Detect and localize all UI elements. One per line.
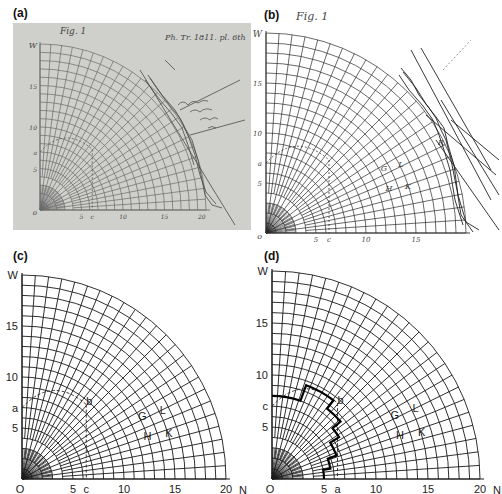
n-axis-tick: 10: [118, 483, 130, 494]
w-axis-title: W: [29, 41, 38, 50]
grid: [266, 31, 470, 233]
w-axis-tick: c: [263, 400, 269, 412]
w-axis-tick: 10: [256, 369, 268, 381]
n-axis-tick: 5: [80, 213, 84, 220]
point-label-b: b: [338, 394, 344, 406]
n-axis-tick: 10: [119, 213, 127, 220]
origin-label: O: [266, 483, 275, 494]
w-axis-tick: 15: [256, 317, 268, 329]
n-axis-tick: 15: [161, 213, 169, 220]
point-label-K: K: [404, 182, 412, 191]
w-axis-tick: 10: [253, 130, 262, 138]
n-axis-tick: 20: [474, 483, 486, 494]
grid: [272, 269, 484, 479]
point-label-H: H: [385, 184, 394, 193]
w-axis-tick: 15: [29, 83, 37, 90]
point-label-H: H: [396, 429, 404, 441]
polar-grid-d: 1510c5W5a101520NObGLHK: [251, 247, 502, 494]
n-axis-title: N: [239, 484, 247, 494]
panel-d: (d) 1510c5W5a101520NObGLHK: [251, 247, 502, 494]
fig-caption: Fig. 1: [295, 10, 328, 23]
point-label-G: G: [138, 410, 147, 422]
n-axis-tick: 5: [314, 236, 319, 244]
w-axis-title: W: [258, 265, 269, 277]
w-axis-tick: 15: [6, 320, 18, 332]
w-axis-tick: 10: [29, 124, 37, 131]
n-axis-tick: c: [91, 213, 95, 220]
sketch-lines: [399, 40, 499, 232]
n-axis-tick: 15: [422, 483, 434, 494]
engraved-figure: Fig. 1W1510a5o5c1015GLHKR: [251, 0, 502, 247]
point-label-K: K: [165, 427, 173, 439]
point-label-G: G: [390, 409, 399, 421]
point-label-b: b: [86, 395, 92, 407]
n-axis-tick: c: [84, 483, 90, 494]
n-axis-tick: a: [334, 483, 341, 494]
w-axis-tick: 5: [12, 422, 18, 434]
w-axis-title: W: [253, 29, 263, 39]
w-axis-tick: 15: [253, 80, 262, 88]
grid: [22, 273, 230, 479]
w-axis-tick: 5: [258, 180, 263, 188]
grid: [40, 42, 210, 210]
n-axis-tick: 15: [169, 483, 181, 494]
point-label-L: L: [412, 402, 418, 414]
point-label-H: H: [143, 430, 151, 442]
manuscript-sketch: Fig. 1Ph. Tr. 1811. pl. 6thW1510a5o5c101…: [0, 0, 251, 247]
w-axis-title: W: [8, 269, 19, 281]
annotation-top-right: Ph. Tr. 1811. pl. 6th: [164, 33, 246, 42]
n-axis-tick: 5: [70, 483, 76, 494]
margin-annotation: [178, 100, 218, 128]
point-label-L: L: [397, 160, 403, 169]
n-axis-tick: 10: [370, 483, 382, 494]
panel-c: (c) 1510a5W5c101520NObGLHK: [0, 247, 251, 494]
w-axis-tick: a: [33, 149, 37, 156]
w-axis-tick: 5: [33, 166, 37, 173]
fig-caption: Fig. 1: [59, 26, 86, 36]
point-label-G: G: [381, 164, 388, 173]
panel-a: (a) Fig. 1Ph. Tr. 1811. pl. 6thW1510a5o5…: [0, 0, 251, 247]
w-axis-tick: a: [258, 160, 262, 168]
point-label-K: K: [418, 426, 426, 438]
n-axis-tick: 20: [220, 483, 232, 494]
point-label-L: L: [160, 404, 166, 416]
n-axis-tick: 5: [321, 483, 327, 494]
polar-grid-c: 1510a5W5c101520NObGLHK: [0, 247, 251, 494]
n-axis-tick: 20: [197, 213, 206, 220]
origin-label: o: [33, 209, 37, 217]
origin-label: o: [257, 232, 262, 241]
panel-b: (b) Fig. 1W1510a5o5c1015GLHKR: [251, 0, 502, 247]
n-axis-tick: c: [327, 236, 331, 244]
w-axis-tick: 10: [6, 371, 18, 383]
w-axis-tick: 5: [262, 421, 268, 433]
n-axis-title: N: [493, 484, 501, 494]
w-axis-tick: a: [12, 402, 19, 414]
n-axis-tick: 10: [362, 236, 371, 244]
n-axis-tick: 15: [412, 236, 421, 244]
origin-label: O: [16, 483, 25, 494]
